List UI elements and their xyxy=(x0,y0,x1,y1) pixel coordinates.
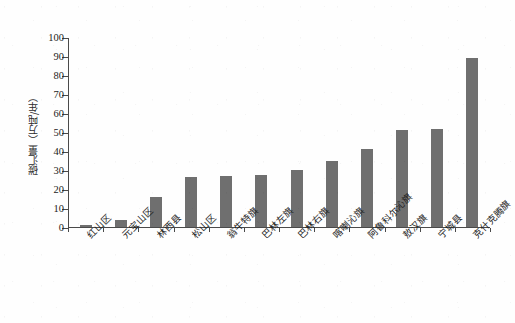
y-tick-label: 100 xyxy=(48,31,64,44)
y-tick-label: 70 xyxy=(54,88,65,101)
y-tick-label: 20 xyxy=(54,183,65,196)
y-tick-label: 40 xyxy=(54,145,65,158)
y-tick-label: 30 xyxy=(54,164,65,177)
y-tick-label: 50 xyxy=(54,126,65,139)
y-tick-label: 60 xyxy=(54,107,65,120)
bar xyxy=(291,170,303,227)
bar xyxy=(220,176,232,227)
bar xyxy=(466,58,478,227)
y-axis-line xyxy=(68,38,69,228)
bar xyxy=(431,129,443,227)
plot-area: 0102030405060708090100 xyxy=(68,38,490,228)
y-axis-title: 碳汇量（万吨/年） xyxy=(26,38,42,228)
y-tick-label: 10 xyxy=(54,202,65,215)
y-tick-label: 80 xyxy=(54,69,65,82)
x-axis-labels: 红山区元宝山区林西县松山区翁牛特旗巴林左旗巴林右旗喀喇沁旗阿鲁科尔沁旗敖汉旗宁城… xyxy=(68,231,490,321)
bar xyxy=(185,177,197,227)
y-tick-label: 90 xyxy=(54,50,65,63)
y-tick-label: 0 xyxy=(59,221,64,234)
bar-chart-figure: 碳汇量（万吨/年） 0102030405060708090100 红山区元宝山区… xyxy=(0,0,515,323)
bar xyxy=(255,175,267,227)
